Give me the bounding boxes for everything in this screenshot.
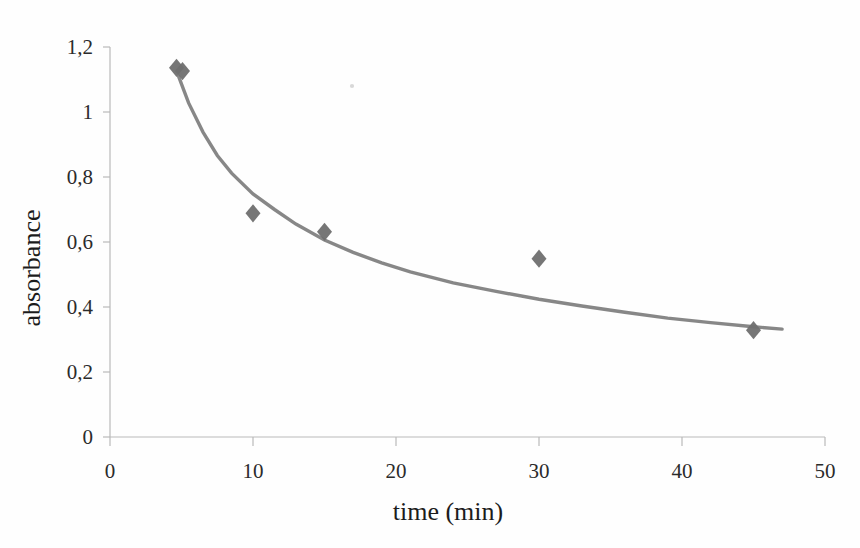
absorbance-vs-time-chart: 0 0,2 0,4 0,6 0,8 1 1,2 0 10 20 30 40 50… (0, 0, 860, 548)
y-tick-label-2: 0,4 (67, 295, 94, 319)
chart-background (0, 0, 860, 548)
x-axis-title: time (min) (393, 497, 503, 526)
x-tick-label-3: 30 (529, 459, 550, 483)
x-tick-label-4: 40 (672, 459, 693, 483)
y-tick-label-0: 0 (83, 425, 94, 449)
y-tick-label-4: 0,8 (67, 165, 93, 189)
y-tick-label-5: 1 (83, 100, 94, 124)
y-axis-title: absorbance (17, 210, 46, 327)
y-tick-label-3: 0,6 (67, 230, 93, 254)
x-tick-label-0: 0 (105, 459, 116, 483)
y-tick-label-1: 0,2 (67, 360, 93, 384)
scan-speck (350, 84, 354, 88)
chart-page: 0 0,2 0,4 0,6 0,8 1 1,2 0 10 20 30 40 50… (0, 0, 860, 548)
x-tick-label-2: 20 (386, 459, 407, 483)
x-tick-label-1: 10 (243, 459, 264, 483)
x-tick-label-5: 50 (815, 459, 836, 483)
y-tick-label-6: 1,2 (67, 35, 93, 59)
